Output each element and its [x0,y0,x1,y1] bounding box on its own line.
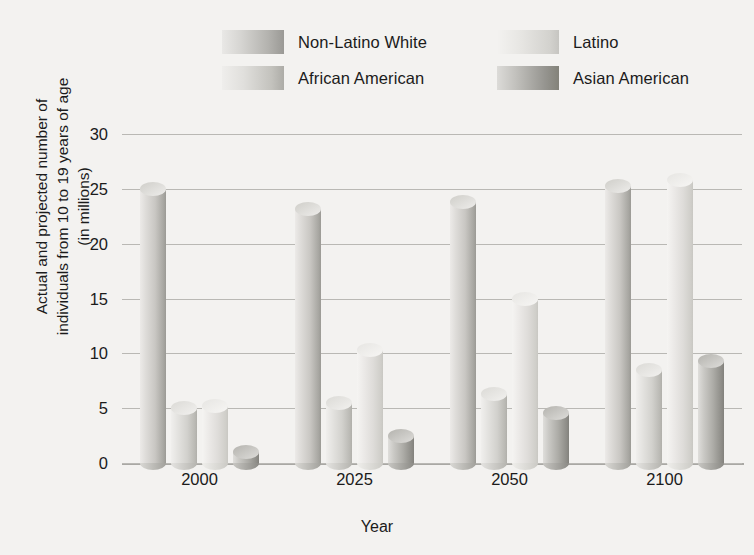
bar-chart: Non-Latino White Latino African American… [0,0,754,555]
bar-top [326,396,352,410]
bar-top [605,179,631,193]
bar-top [481,387,507,401]
legend-label-african-american: African American [298,69,424,88]
bar-body [140,189,166,463]
bar-non-latino-white-2025 [295,202,321,463]
bar-top [140,182,166,196]
bar-top [388,429,414,443]
bar-body [326,403,352,463]
gridline [122,134,742,135]
bar-top [233,445,259,459]
x-axis-title: Year [0,518,754,536]
y-axis-tick-labels: 051015202530 [0,134,122,465]
legend-item-african-american: African American [222,66,424,90]
y-axis-tick-label: 20 [90,236,108,252]
x-axis-tick-label: 2050 [491,470,528,489]
bar-non-latino-white-2050 [450,195,476,463]
bar-top [667,173,693,187]
bar-latino-2025 [357,343,383,463]
bar-asian-american-2100 [698,354,724,463]
plot-area [122,134,742,463]
chart-legend: Non-Latino White Latino African American… [222,30,722,100]
bar-body [171,408,197,463]
bar-body [450,202,476,463]
legend-label-latino: Latino [573,33,619,52]
x-axis-tick-label: 2100 [646,470,683,489]
gridline [122,299,742,300]
bar-latino-2000 [202,399,228,463]
bar-african-american-2000 [171,401,197,463]
bar-body [605,186,631,463]
bar-african-american-2050 [481,387,507,463]
legend-item-non-latino-white: Non-Latino White [222,30,427,54]
bar-top [512,292,538,306]
bar-body [512,299,538,464]
gridline [122,189,742,190]
bar-non-latino-white-2100 [605,179,631,463]
legend-swatch-asian-american-icon [497,66,559,90]
legend-item-asian-american: Asian American [497,66,689,90]
bar-asian-american-2025 [388,429,414,463]
bar-top [698,354,724,368]
bar-latino-2100 [667,173,693,463]
bar-latino-2050 [512,292,538,464]
bar-body [543,413,569,463]
bar-african-american-2100 [636,363,662,463]
bar-body [667,180,693,463]
y-axis-tick-label: 30 [90,126,108,142]
bar-body [698,361,724,463]
bar-top [357,343,383,357]
bar-asian-american-2000 [233,445,259,463]
bar-top [295,202,321,216]
bar-non-latino-white-2000 [140,182,166,463]
gridline [122,353,742,354]
bar-top [636,363,662,377]
y-axis-tick-label: 5 [99,400,108,416]
bar-asian-american-2050 [543,406,569,463]
bar-body [636,370,662,463]
legend-swatch-latino-icon [497,30,559,54]
bar-body [481,394,507,463]
legend-swatch-non-latino-white-icon [222,30,284,54]
x-axis-tick-labels: 2000202520502100 [122,470,742,498]
bar-body [357,350,383,463]
legend-swatch-african-american-icon [222,66,284,90]
legend-label-asian-american: Asian American [573,69,689,88]
y-axis-tick-label: 25 [90,181,108,197]
y-axis-tick-label: 10 [90,345,108,361]
bar-top [450,195,476,209]
y-axis-tick-label: 15 [90,291,108,307]
legend-label-non-latino-white: Non-Latino White [298,33,427,52]
bar-top [543,406,569,420]
bar-top [202,399,228,413]
y-axis-tick-label: 0 [99,455,108,471]
legend-item-latino: Latino [497,30,619,54]
bar-body [202,406,228,463]
bar-body [295,209,321,463]
x-axis-tick-label: 2025 [336,470,373,489]
bar-african-american-2025 [326,396,352,463]
x-axis-tick-label: 2000 [181,470,218,489]
gridline [122,244,742,245]
